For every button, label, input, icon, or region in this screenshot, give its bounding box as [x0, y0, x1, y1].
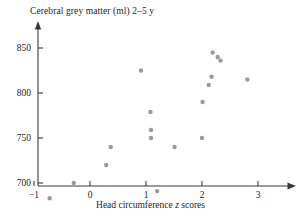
y-axis-arrow-icon [35, 21, 41, 30]
data-point [109, 145, 113, 149]
data-point [139, 68, 143, 72]
axes-group [35, 21, 296, 190]
ticks-group [34, 48, 258, 186]
y-tick-label-800: 800 [17, 88, 32, 98]
data-point [104, 163, 108, 167]
x-axis-label-pre: Head circumference [96, 200, 175, 210]
data-point [149, 128, 153, 132]
data-point [245, 77, 249, 81]
data-point [218, 58, 222, 62]
data-point [72, 181, 76, 185]
x-axis-label: Head circumference z scores [0, 200, 301, 210]
data-point [155, 189, 159, 193]
tick-labels-group: 700750800850−10123 [17, 43, 261, 200]
x-axis-arrow-icon [288, 182, 297, 189]
scatter-plot-figure: Cerebral grey matter (ml) 2–5 y 70075080… [0, 0, 301, 219]
data-point [200, 100, 204, 104]
x-axis-label-post: scores [179, 200, 205, 210]
data-point [149, 136, 153, 140]
y-tick-label-700: 700 [17, 178, 32, 188]
data-point [209, 75, 213, 79]
y-tick-label-750: 750 [17, 133, 32, 143]
x-tick-label-2: 2 [200, 190, 205, 200]
x-tick-label-3: 3 [256, 190, 261, 200]
data-point [200, 136, 204, 140]
data-point [207, 83, 211, 87]
x-tick-label-neg1: −1 [29, 190, 39, 200]
x-tick-label-1: 1 [144, 190, 149, 200]
x-tick-label-0: 0 [88, 190, 93, 200]
y-tick-label-850: 850 [17, 43, 32, 53]
data-point [215, 55, 219, 59]
data-point [148, 110, 152, 114]
data-point [210, 50, 214, 54]
chart-canvas: 700750800850−10123 [0, 0, 301, 219]
data-points-group [47, 50, 249, 200]
data-point [172, 145, 176, 149]
